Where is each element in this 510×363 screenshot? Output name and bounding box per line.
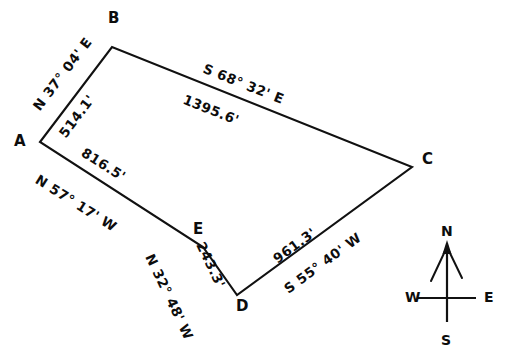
vertex-label-E: E xyxy=(193,222,203,237)
survey-plat-figure: A B C D E N 37° 04' E 514.1' S 68° 32' E… xyxy=(0,0,510,363)
vertex-label-D: D xyxy=(236,299,248,314)
vertex-label-A: A xyxy=(14,134,26,149)
vertex-label-C: C xyxy=(422,152,433,167)
compass-label-east: E xyxy=(484,290,494,304)
compass-barb-left xyxy=(431,249,446,281)
compass-label-south: S xyxy=(441,333,451,347)
compass-label-west: W xyxy=(405,290,420,304)
compass-barb-right xyxy=(448,249,462,278)
compass-label-north: N xyxy=(441,224,453,238)
compass-rose-group xyxy=(418,240,476,322)
vertex-label-B: B xyxy=(108,11,119,26)
